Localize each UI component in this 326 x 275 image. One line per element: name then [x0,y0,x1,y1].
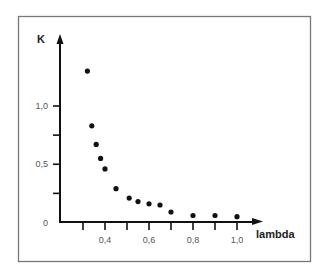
data-point [234,214,239,219]
data-points [85,68,240,219]
data-point [157,202,162,207]
data-point [212,213,217,218]
data-point [89,123,94,128]
data-point [113,186,118,191]
y-tick-label: 0,5 [35,159,48,169]
data-point [135,199,140,204]
x-tick-label: 0,4 [99,235,112,245]
y-tick-label: 0 [43,218,48,228]
data-point [190,213,195,218]
x-tick-label: 1,0 [231,235,244,245]
y-axis-label: K [37,33,45,45]
chart: 00,51,0 0,40,60,81,0 K lambda [0,0,326,275]
data-point [146,201,151,206]
data-point [94,142,99,147]
data-point [102,166,107,171]
data-point [127,195,132,200]
x-axis-ticks: 0,40,60,81,0 [83,222,243,245]
x-axis-label: lambda [256,228,295,240]
data-point [168,209,173,214]
y-axis-arrow-icon [57,34,64,44]
x-axis-arrow-icon [252,218,263,225]
x-axis [59,218,263,225]
y-axis-ticks: 00,51,0 [35,101,60,228]
data-point [98,156,103,161]
chart-frame [19,17,311,262]
y-axis [57,34,64,223]
data-point [85,68,90,73]
x-tick-label: 0,6 [143,235,156,245]
y-tick-label: 1,0 [35,101,48,111]
x-tick-label: 0,8 [187,235,200,245]
